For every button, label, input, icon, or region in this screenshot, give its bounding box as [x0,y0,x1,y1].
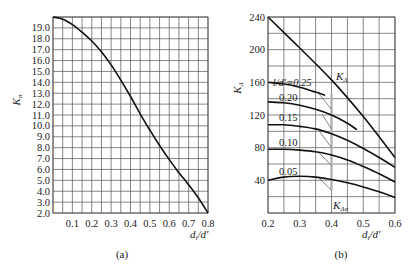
y-tick-label: 12.0 [32,99,50,110]
curve-label: l/d′=0.25 [273,77,312,88]
y-tick-label: 9.0 [37,131,50,142]
x-tick-label: 0.4 [124,218,138,229]
chart-a-caption: (a) [116,248,129,261]
x-tick-label: 0.1 [66,218,79,229]
y-tick-label: 17.0 [32,44,50,55]
y-tick-label: 3.0 [37,197,50,208]
x-tick-label: 0.5 [143,218,156,229]
y-tick-label: 240 [249,12,265,23]
y-tick-label: 14.0 [32,77,50,88]
chart-a-x-label: di/d′ [190,228,209,242]
y-tick-label: 11.0 [32,110,50,121]
x-tick-label: 0.2 [261,218,274,229]
curve-label: 0.20 [279,92,297,103]
y-tick-label: 13.0 [32,88,50,99]
x-tick-label: 0.4 [325,218,339,229]
x-tick-label: 0.3 [293,218,306,229]
y-tick-label: 4.0 [37,186,50,197]
leader-line [319,94,332,110]
chart-b: 4080120160200240 0.20.30.40.50.6 l/d′=0.… [231,12,402,262]
y-tick-label: 16.0 [32,55,50,66]
chart-b-k-delta-sigma-leaders [319,94,332,190]
y-tick-label: 160 [249,77,265,88]
y-tick-label: 7.0 [37,153,50,164]
y-tick-label: 6.0 [37,164,50,175]
y-tick-label: 40 [255,175,266,186]
x-tick-label: 0.3 [105,218,118,229]
chart-a: 2.03.04.05.06.07.08.09.010.011.012.013.0… [10,17,215,261]
chart-b-x-label: di/d′ [362,228,381,242]
chart-a-grid [53,17,208,213]
x-tick-label: 0.6 [388,218,401,229]
x-tick-label: 0.2 [85,218,98,229]
y-tick-label: 80 [255,142,266,153]
curve-label: 0.10 [279,137,297,148]
y-tick-label: 8.0 [37,142,50,153]
chart-b-caption: (b) [335,248,348,261]
y-tick-label: 10.0 [32,120,50,131]
y-tick-label: 200 [249,44,265,55]
chart-b-x-ticks: 0.20.30.40.50.6 [261,218,401,229]
chart-a-y-ticks: 2.03.04.05.06.07.08.09.010.011.012.013.0… [32,22,50,218]
y-tick-label: 18.0 [32,33,50,44]
chart-b-y-label: KΔ [231,82,245,94]
x-tick-label: 0.6 [163,218,176,229]
curve-label: 0.15 [279,112,297,123]
y-tick-label: 19.0 [32,22,50,33]
chart-a-y-label: Kσ [10,94,24,106]
y-tick-label: 15.0 [32,66,50,77]
y-tick-label: 120 [249,110,265,121]
curve-label: 0.05 [279,166,297,177]
figure: 2.03.04.05.06.07.08.09.010.011.012.013.0… [0,0,418,272]
y-tick-label: 5.0 [37,175,50,186]
chart-b-y-ticks: 4080120160200240 [249,12,265,186]
y-tick-label: 2.0 [37,208,50,219]
chart-b-k-delta-sigma-label: KΔσ [332,199,348,213]
chart-b-k-delta-label: KΔ [335,70,347,84]
